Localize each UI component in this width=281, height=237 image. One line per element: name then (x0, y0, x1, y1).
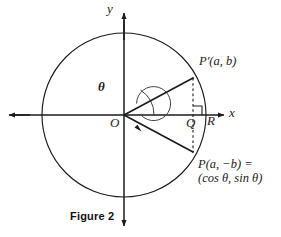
point-p-marker (192, 151, 194, 153)
radius-line-to-p-prime (124, 78, 193, 115)
point-r-label: R (207, 114, 215, 129)
theta-angle-label: θ (98, 80, 105, 95)
right-angle-mark (193, 106, 202, 115)
point-p-prime-label: P′(a, b) (199, 54, 236, 68)
point-p-prime-marker (192, 77, 194, 79)
origin-label: O (110, 116, 119, 131)
y-axis-label: y (107, 2, 113, 17)
diagram-canvas (0, 0, 281, 237)
figure-caption: Figure 2 (70, 210, 114, 222)
point-p-label-line2: (cos θ, sin θ) (198, 171, 262, 185)
point-q-label: Q (186, 116, 195, 131)
point-p-label: P(a, −b) = (cos θ, sin θ) (198, 157, 262, 185)
point-p-label-line1: P(a, −b) = (198, 157, 253, 171)
figure-2-diagram: y x θ O Q R P′(a, b) P(a, −b) = (cos θ, … (0, 0, 281, 237)
radius-line-to-p (124, 115, 193, 152)
x-axis-label: x (229, 106, 235, 121)
theta-sweep-arrowhead (135, 125, 142, 132)
